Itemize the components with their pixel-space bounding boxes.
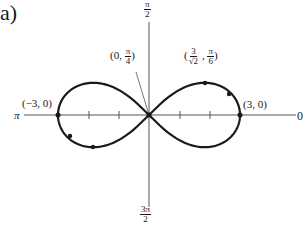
point-label-3-0: (3, 0) bbox=[243, 99, 267, 110]
point-label-3-over-root2-pi-over-6: (3√2 , π6) bbox=[184, 47, 218, 66]
axis-label-3pi-over-2: 3π2 bbox=[140, 205, 151, 224]
axis-label-0: 0 bbox=[297, 110, 303, 122]
axis-label-pi-over-2: π2 bbox=[144, 0, 151, 19]
axis-label-pi: π bbox=[14, 110, 20, 121]
polar-plot bbox=[0, 0, 306, 226]
point-label-0-pi-over-4: (0, π4) bbox=[110, 47, 135, 66]
point-label-neg3-0: (−3, 0) bbox=[22, 98, 52, 109]
